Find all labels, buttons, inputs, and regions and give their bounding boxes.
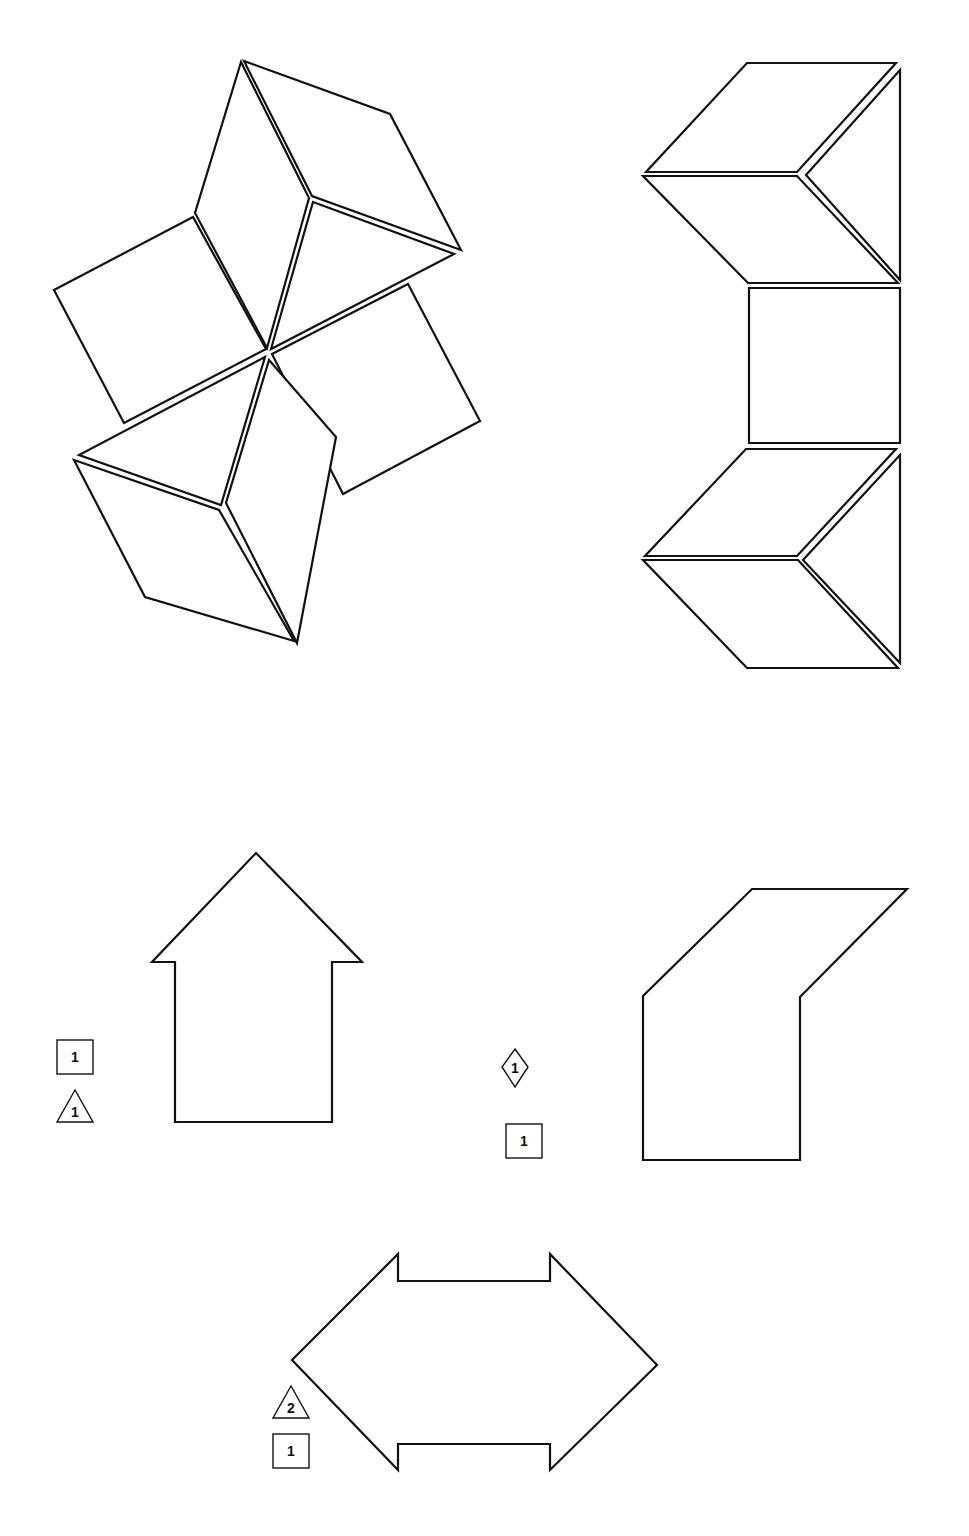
slanted-outline-puzzle: 11 [502, 889, 907, 1160]
tangram-figure-canvas: 11 11 21 [0, 0, 969, 1536]
triangle-count-label: 1 [57, 1090, 93, 1122]
double-arrow-outline-puzzle: 21 [273, 1254, 657, 1470]
house-outline-puzzle: 11 [57, 853, 362, 1122]
silhouette-outline [152, 853, 362, 1122]
square-count-label: 1 [57, 1040, 93, 1074]
pinwheel-puzzle [54, 61, 480, 643]
piece-count: 1 [71, 1049, 79, 1065]
column-puzzle [643, 63, 900, 668]
triangle-count-label: 2 [273, 1386, 309, 1418]
square-count-label: 1 [273, 1434, 309, 1468]
silhouette-outline [292, 1254, 657, 1470]
square-count-label: 1 [506, 1124, 542, 1158]
piece-count: 1 [520, 1133, 528, 1149]
piece-count: 1 [511, 1060, 519, 1076]
diamond-count-label: 1 [502, 1049, 528, 1087]
square-piece [749, 288, 900, 443]
piece-count: 1 [287, 1443, 295, 1459]
piece-count: 2 [287, 1400, 295, 1416]
piece-count: 1 [71, 1104, 79, 1120]
silhouette-outline [643, 889, 907, 1160]
